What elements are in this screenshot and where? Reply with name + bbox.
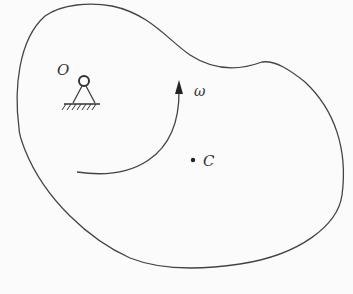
rotation-arrow [77, 90, 179, 174]
arrowhead-icon [175, 80, 183, 94]
center-of-mass-label: C [203, 152, 215, 170]
rigid-body-outline [17, 4, 343, 268]
omega-label: ω [194, 83, 206, 99]
diagram-svg: O ω C [0, 0, 353, 294]
diagram-canvas: O ω C [0, 0, 353, 294]
center-of-mass-dot [191, 158, 195, 162]
pinned-support-icon [62, 76, 100, 110]
pivot-label: O [57, 61, 69, 79]
